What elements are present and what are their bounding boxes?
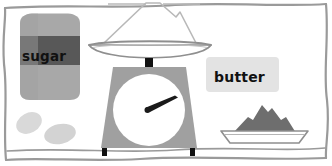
needle-pivot	[145, 107, 151, 113]
sugar-label-text: sugar	[22, 50, 66, 64]
scale-foot-right	[190, 148, 195, 156]
scale-foot-left	[102, 148, 107, 156]
scale-post	[145, 58, 153, 67]
illustration-scene: sugar butter	[0, 0, 332, 166]
plate-body	[221, 131, 308, 143]
butter-label-text: butter	[214, 70, 265, 84]
scene-svg	[0, 0, 332, 166]
